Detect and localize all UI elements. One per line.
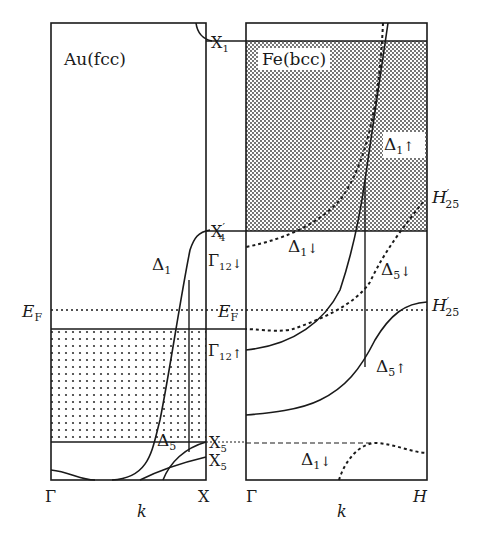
gamma12-up-label: Γ12↑	[208, 341, 242, 362]
au-fermi-label: EF	[21, 301, 42, 324]
au-band-x1	[196, 23, 212, 41]
x5-label-b: X5	[209, 451, 227, 472]
middle-labels: X1 X′4 Γ12↓ EF Γ12↑ X5 X5	[208, 33, 242, 472]
fe-k-axis-label: k	[337, 502, 347, 521]
au-band-low1	[51, 470, 95, 480]
au-x-label: X	[198, 487, 210, 506]
au-title: Au(fcc)	[63, 49, 126, 69]
x4-prime-label: X′4	[211, 221, 225, 243]
fe-h25-mid-label: H′25	[431, 295, 459, 319]
fe-h25-top-label: H′25	[431, 187, 459, 211]
fe-d1-down-bottom-label: Δ1↓	[301, 449, 331, 472]
band-structure-diagram: Au(fcc) Δ1 Δ5 EF Γ X k X1 X′4 Γ12↓ EF Γ1…	[0, 0, 488, 535]
middle-fermi-label: EF	[217, 301, 238, 324]
au-k-axis-label: k	[137, 502, 147, 521]
fe-title: Fe(bcc)	[262, 49, 326, 69]
au-delta1-label: Δ1	[152, 254, 171, 277]
fe-d5-down-label: Δ5↓	[381, 259, 411, 282]
x1-label: X1	[211, 33, 229, 54]
au-band-low2	[140, 457, 206, 480]
au-gamma-label: Γ	[45, 487, 56, 506]
fe-band-delta1-down-bottom	[339, 443, 427, 480]
fe-band-delta5-up	[246, 302, 427, 415]
gamma12-down-label: Γ12↓	[208, 251, 242, 272]
fe-d1-down-label: Δ1↓	[288, 236, 318, 259]
fe-h-label: H	[412, 487, 428, 506]
fe-gamma-label: Γ	[246, 487, 257, 506]
au-shaded-region	[51, 329, 206, 442]
fe-d5-up-label: Δ5↑	[376, 356, 406, 379]
